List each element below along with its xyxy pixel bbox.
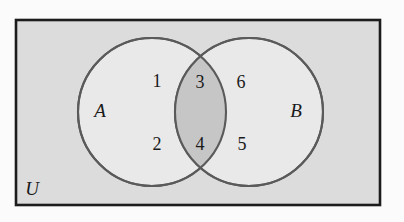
region-label-1: 1	[153, 71, 162, 91]
set-a-label: A	[92, 100, 106, 121]
region-label-4: 4	[196, 134, 205, 154]
venn-diagram-canvas: 1 2 3 4 5 6 A B U	[0, 0, 404, 222]
universe-label: U	[25, 178, 40, 199]
set-b-label: B	[290, 100, 302, 121]
region-label-5: 5	[238, 134, 247, 154]
venn-diagram-figure: 1 2 3 4 5 6 A B U	[0, 0, 404, 222]
region-label-6: 6	[237, 72, 246, 92]
region-label-2: 2	[153, 134, 162, 154]
region-label-3: 3	[196, 72, 205, 92]
